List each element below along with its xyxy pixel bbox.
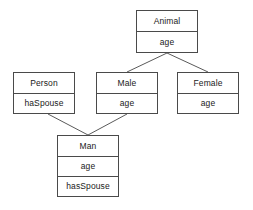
class-attribute-animal-age: age [137,31,197,52]
class-box-female[interactable]: Female age [177,72,239,114]
class-box-person[interactable]: Person haSpouse [13,72,75,114]
class-name-person: Person [14,73,74,93]
class-attribute-male-age: age [97,93,157,113]
class-name-animal: Animal [137,11,197,31]
class-attribute-person-haspouse: haSpouse [14,93,74,113]
edge-male-man [88,114,127,135]
class-box-man[interactable]: Man age hasSpouse [57,135,119,197]
class-name-female: Female [178,73,238,93]
class-box-animal[interactable]: Animal age [136,10,198,53]
edge-person-man [48,114,88,135]
edge-animal-female [167,53,208,72]
class-attribute-man-hasspouse: hasSpouse [58,176,118,196]
class-name-male: Male [97,73,157,93]
class-box-male[interactable]: Male age [96,72,158,114]
edge-animal-male [127,53,167,72]
class-attribute-female-age: age [178,93,238,113]
class-name-man: Man [58,136,118,156]
diagram-canvas: Animal age Person haSpouse Male age Fema… [0,0,253,210]
class-attribute-man-age: age [58,156,118,176]
